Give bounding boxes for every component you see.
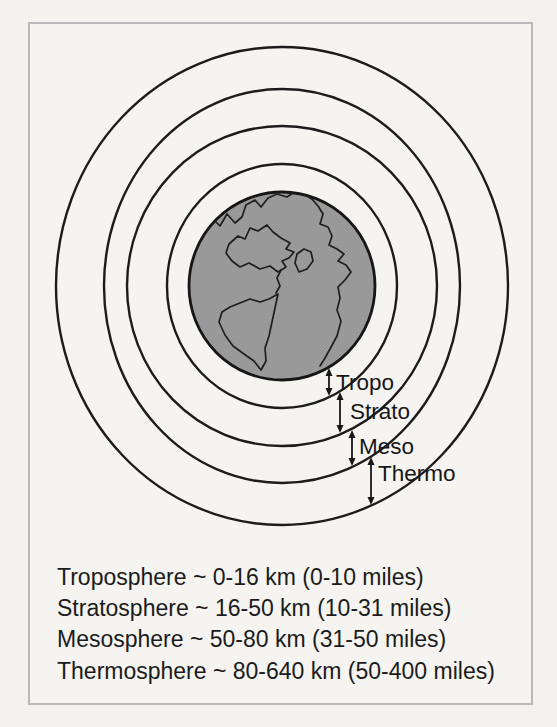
legend-troposphere: Troposphere ~ 0-16 km (0-10 miles) <box>57 562 495 593</box>
legend-thermosphere: Thermosphere ~ 80-640 km (50-400 miles) <box>57 656 495 687</box>
legend: Troposphere ~ 0-16 km (0-10 miles) Strat… <box>57 562 495 687</box>
legend-stratosphere: Stratosphere ~ 16-50 km (10-31 miles) <box>57 593 495 624</box>
figure-page: Tropo Strato Meso Thermo Troposphere ~ 0… <box>0 0 557 727</box>
label-mesosphere: Meso <box>359 434 414 459</box>
earth-globe <box>189 191 375 380</box>
troposphere-range-arrow <box>326 368 333 396</box>
legend-mesosphere: Mesosphere ~ 50-80 km (31-50 miles) <box>57 624 495 655</box>
earth-surface <box>189 192 375 380</box>
thermosphere-range-arrow <box>368 457 375 505</box>
label-troposphere: Tropo <box>336 370 394 395</box>
stratosphere-range-arrow <box>337 392 344 433</box>
label-stratosphere: Strato <box>350 399 410 424</box>
mesosphere-range-arrow <box>349 430 356 466</box>
label-thermosphere: Thermo <box>378 461 456 486</box>
